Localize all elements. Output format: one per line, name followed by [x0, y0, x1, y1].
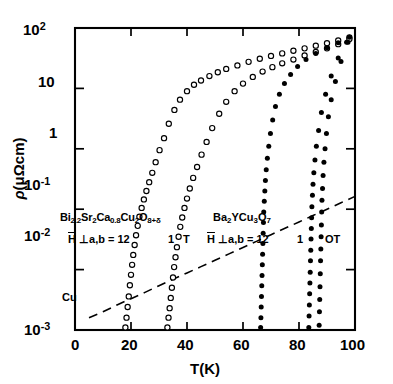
x-axis-tick-40: 40 — [177, 336, 194, 353]
x-axis-tick-80: 80 — [289, 336, 306, 353]
y-axis-label: ρ(μΩcm) — [10, 129, 27, 209]
bi-field-12t-label: H ⊥a,b = 12 — [68, 233, 130, 246]
ybco-field-0t-label: OT — [325, 233, 340, 245]
x-axis-tick-0: 0 — [71, 336, 79, 353]
bi-compound-formula: Bi2.2Sr2Ca0.8Cu2O8+δ — [60, 211, 161, 225]
y-axis-label-units: (μΩcm) — [10, 138, 27, 191]
resistivity-vs-temperature-figure: 102 10 1 10-1 10-2 10-3 0 20 40 60 80 10… — [0, 0, 393, 384]
y-axis-label-rho: ρ — [10, 190, 27, 199]
y-axis-tick-1: 1 — [49, 124, 57, 141]
y-axis-tick-10e-3: 10-3 — [24, 320, 50, 338]
bi-field-1t-unit: T — [183, 233, 190, 245]
ybco-compound-formula: Ba2YCu3O7 — [213, 211, 271, 225]
series-filled-12T — [258, 35, 352, 330]
series-filled-0T — [317, 40, 351, 328]
y-axis-tick-10e-2: 10-2 — [24, 226, 50, 244]
x-axis-label: T(K) — [190, 360, 220, 377]
x-axis-tick-20: 20 — [121, 336, 138, 353]
cu-curve-label: Cu — [62, 291, 77, 303]
x-axis-tick-100: 100 — [340, 336, 365, 353]
y-axis-tick-10: 10 — [38, 73, 55, 90]
bi-field-1t-label: 1 — [168, 233, 174, 245]
series-open-1T — [165, 36, 352, 330]
series-filled-1T — [306, 40, 349, 330]
x-axis-tick-60: 60 — [233, 336, 250, 353]
ybco-field-1t-label: 1 — [297, 233, 303, 245]
y-axis-tick-10e-1: 10-1 — [24, 175, 50, 193]
plot-canvas — [0, 0, 393, 384]
y-axis-tick-10e2: 102 — [23, 20, 46, 38]
ybco-field-12t-label: H ⊥a,b = 12 — [207, 233, 269, 246]
